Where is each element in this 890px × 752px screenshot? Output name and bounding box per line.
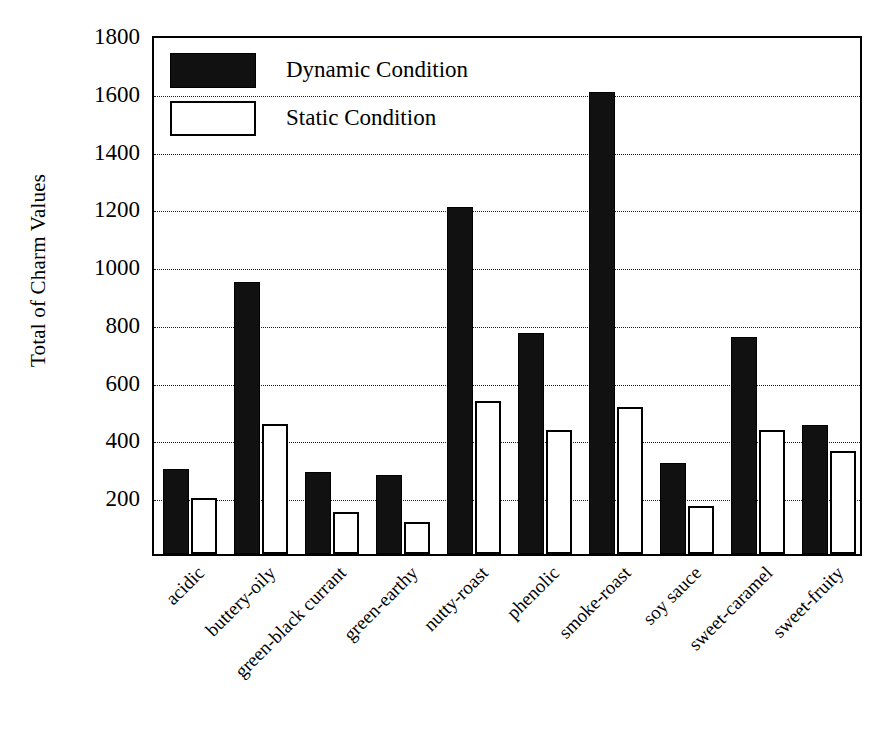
bar-static bbox=[475, 401, 501, 554]
bar-dynamic bbox=[660, 463, 686, 554]
y-axis-tick-label: 1200 bbox=[36, 198, 140, 221]
x-axis-tick-label: green-earthy bbox=[339, 562, 422, 645]
bar-static bbox=[759, 430, 785, 554]
x-axis-tick-label: soy sauce bbox=[639, 562, 706, 629]
bar-static bbox=[617, 407, 643, 554]
bar-dynamic bbox=[305, 472, 331, 554]
y-axis-tick-labels: 20040060080010001200140016001800 bbox=[28, 0, 140, 752]
x-axis-tick-label: acidic bbox=[161, 562, 209, 610]
x-axis-tick-label: sweet-fruity bbox=[768, 562, 848, 642]
legend-label-static: Static Condition bbox=[286, 105, 436, 131]
x-axis-tick-label: smoke-roast bbox=[554, 562, 635, 643]
bar-static bbox=[546, 430, 572, 554]
x-axis-tick-label-text: soy sauce bbox=[639, 562, 706, 629]
y-axis-tick-label: 1400 bbox=[36, 140, 140, 163]
legend-item-dynamic: Dynamic Condition bbox=[170, 46, 590, 94]
bar-static bbox=[830, 451, 856, 554]
y-axis-tick-label: 1600 bbox=[36, 82, 140, 105]
bar-group bbox=[793, 38, 864, 554]
bar-static bbox=[262, 424, 288, 554]
bar-dynamic bbox=[234, 282, 260, 554]
y-axis-tick-label: 600 bbox=[36, 371, 140, 394]
legend-swatch-static bbox=[170, 101, 256, 136]
bar-static bbox=[404, 522, 430, 554]
bar-dynamic bbox=[376, 475, 402, 554]
x-axis-tick-label: nutty-roast bbox=[419, 562, 493, 636]
bar-dynamic bbox=[163, 469, 189, 554]
bar-dynamic bbox=[731, 337, 757, 554]
bar-group bbox=[722, 38, 793, 554]
plot-area: Dynamic Condition Static Condition bbox=[152, 36, 862, 556]
y-axis-tick-label: 1800 bbox=[36, 25, 140, 48]
bar-chart-figure: Total of Charm Values 200400600800100012… bbox=[0, 0, 890, 752]
y-axis-tick-label: 1000 bbox=[36, 256, 140, 279]
x-axis-tick-label: phenolic bbox=[502, 562, 564, 624]
x-axis-tick-label-text: nutty-roast bbox=[419, 562, 493, 636]
y-axis-tick-label: 800 bbox=[36, 313, 140, 336]
y-axis-tick-label: 400 bbox=[36, 429, 140, 452]
bar-dynamic bbox=[802, 425, 828, 554]
x-axis-tick-label-text: sweet-fruity bbox=[768, 562, 848, 642]
legend-swatch-dynamic bbox=[170, 53, 256, 88]
bar-dynamic bbox=[518, 333, 544, 554]
bar-static bbox=[191, 498, 217, 554]
bar-dynamic bbox=[589, 92, 615, 554]
bar-static bbox=[688, 506, 714, 554]
bar-group bbox=[651, 38, 722, 554]
x-axis-tick-label-text: green-earthy bbox=[339, 562, 422, 645]
bar-static bbox=[333, 512, 359, 554]
x-axis-tick-label-text: acidic bbox=[161, 562, 209, 610]
bar-group bbox=[580, 38, 651, 554]
x-axis-tick-label-text: smoke-roast bbox=[554, 562, 635, 643]
x-axis-tick-label-text: phenolic bbox=[502, 562, 564, 624]
legend-label-dynamic: Dynamic Condition bbox=[286, 57, 468, 83]
legend-item-static: Static Condition bbox=[170, 94, 590, 142]
chart-legend: Dynamic Condition Static Condition bbox=[170, 46, 590, 142]
bar-dynamic bbox=[447, 207, 473, 554]
y-axis-tick-label: 200 bbox=[36, 487, 140, 510]
x-axis-tick-labels: acidicbuttery-oilygreen-black currantgre… bbox=[152, 558, 862, 748]
